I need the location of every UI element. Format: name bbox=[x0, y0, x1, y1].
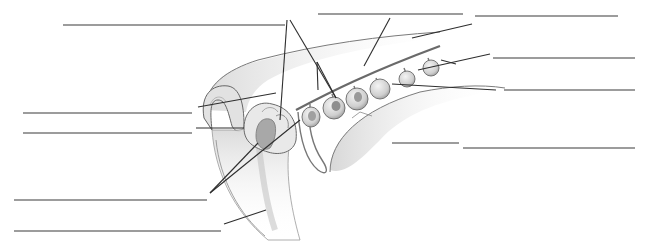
tooth-bud-3 bbox=[346, 86, 368, 110]
label-slot-7 bbox=[23, 119, 192, 133]
label-slot-10 bbox=[14, 186, 207, 200]
label-slot-6 bbox=[23, 99, 192, 113]
label-slot-5 bbox=[504, 76, 635, 90]
label-slot-4 bbox=[493, 44, 635, 58]
tooth-bud-2 bbox=[323, 94, 345, 119]
label-slot-9 bbox=[463, 134, 635, 148]
label-slot-8 bbox=[392, 129, 459, 143]
tooth-bud-1 bbox=[302, 104, 320, 127]
label-slot-3 bbox=[475, 2, 618, 16]
label-slot-2 bbox=[318, 0, 463, 14]
label-slot-11 bbox=[14, 217, 221, 231]
anatomy-diagram bbox=[0, 0, 645, 249]
tooth-bud-4 bbox=[370, 78, 390, 99]
label-slot-1 bbox=[63, 11, 285, 25]
